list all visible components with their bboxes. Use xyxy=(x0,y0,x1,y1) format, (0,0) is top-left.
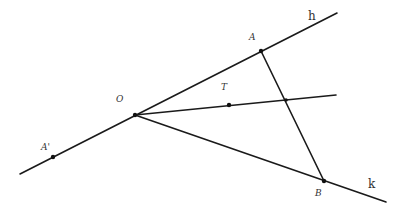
point-a xyxy=(259,49,263,53)
label-k: k xyxy=(368,177,376,191)
label-a: A xyxy=(248,32,256,42)
label-o: O xyxy=(116,94,124,104)
point-a-prime xyxy=(51,155,55,159)
point-intersection xyxy=(284,98,288,102)
point-t xyxy=(227,103,231,107)
label-h: h xyxy=(308,9,316,23)
point-o xyxy=(133,113,137,117)
point-b xyxy=(322,179,326,183)
label-a-prime: A' xyxy=(40,142,50,152)
ray-k xyxy=(135,115,386,202)
ray-h xyxy=(20,13,337,174)
label-t: T xyxy=(221,82,228,92)
label-b: B xyxy=(314,188,322,198)
ray-ot xyxy=(135,95,336,115)
geometry-diagram: O A B T A' h k xyxy=(0,0,401,209)
